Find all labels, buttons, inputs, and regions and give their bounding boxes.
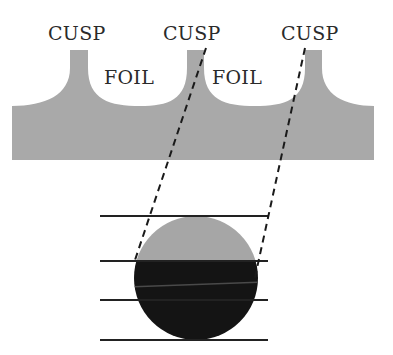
- foil-label-left: FOIL: [104, 66, 154, 88]
- circle-bottom-segment: [130, 261, 270, 351]
- foil-label-right: FOIL: [212, 66, 262, 88]
- cusp-label-right: CUSP: [281, 22, 339, 44]
- foil-structure: [12, 50, 374, 160]
- cusp-foil-diagram: CUSP CUSP CUSP FOIL FOIL: [0, 0, 393, 355]
- circle-top-segment: [130, 210, 270, 261]
- cusp-label-middle: CUSP: [163, 22, 221, 44]
- split-circle: [130, 210, 270, 351]
- cusp-label-left: CUSP: [48, 22, 106, 44]
